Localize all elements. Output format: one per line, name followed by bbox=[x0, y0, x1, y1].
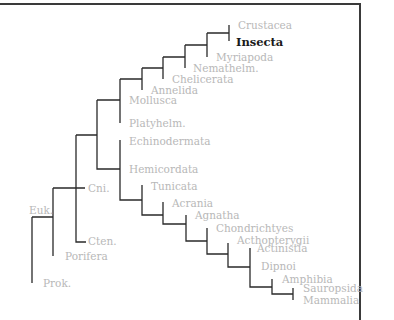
label-mollusca: Mollusca bbox=[129, 94, 177, 106]
label-prok: Prok. bbox=[43, 277, 71, 289]
label-mammalia: Mammalia bbox=[303, 294, 359, 306]
label-euk: Euk. bbox=[29, 204, 53, 216]
phylogenetic-tree-figure: Crustacea Insecta Myriapoda Nemathelm. C… bbox=[0, 0, 394, 320]
label-insecta: Insecta bbox=[236, 35, 284, 49]
branch-euk bbox=[53, 188, 85, 256]
branch-bilateria bbox=[97, 100, 120, 169]
label-sauropsida: Sauropsida bbox=[303, 282, 363, 294]
label-platyhelm: Platyhelm. bbox=[129, 117, 185, 129]
branch-root bbox=[32, 217, 53, 283]
label-cni: Cni. bbox=[88, 182, 110, 194]
label-porifera: Porifera bbox=[65, 250, 108, 262]
label-tunicata: Tunicata bbox=[151, 180, 198, 192]
label-crustacea: Crustacea bbox=[238, 19, 292, 31]
tree-canvas: Crustacea Insecta Myriapoda Nemathelm. C… bbox=[0, 0, 394, 320]
label-chondrichtyes: Chondrichtyes bbox=[216, 222, 293, 234]
taxon-labels: Crustacea Insecta Myriapoda Nemathelm. C… bbox=[29, 19, 363, 306]
label-echinodermata: Echinodermata bbox=[129, 135, 210, 147]
label-hemicordata: Hemicordata bbox=[129, 163, 198, 175]
label-actinistia: Actinistia bbox=[256, 242, 307, 254]
label-agnatha: Agnatha bbox=[194, 209, 240, 221]
label-acrania: Acrania bbox=[171, 197, 213, 209]
label-cten: Cten. bbox=[88, 235, 117, 247]
label-dipnoi: Dipnoi bbox=[261, 260, 297, 272]
branch-actinopterygii bbox=[228, 243, 250, 267]
